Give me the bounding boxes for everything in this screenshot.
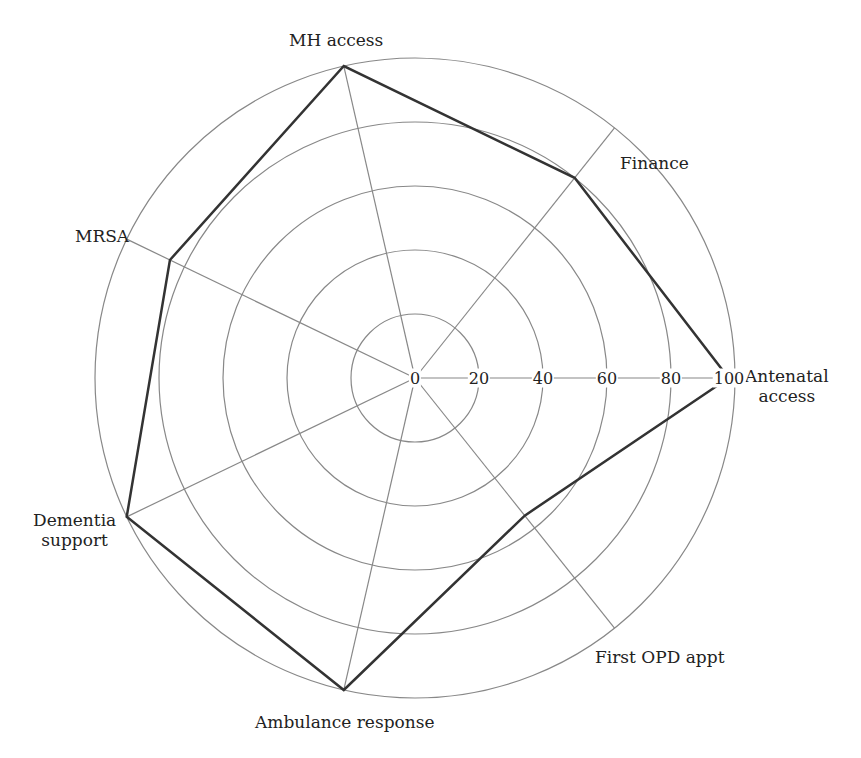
radial-tick-label: 40 [532, 369, 554, 388]
axis-spoke [415, 378, 615, 628]
axis-label-mrsa: MRSA [75, 226, 129, 246]
radial-tick-label: 0 [409, 369, 421, 388]
axis-label-dementia: Dementia support [33, 510, 116, 550]
radial-tick-label: 80 [660, 369, 682, 388]
axis-label-antenatal: Antenatal access [745, 366, 829, 406]
axis-spoke [344, 66, 415, 378]
axis-label-finance: Finance [620, 153, 689, 173]
axis-spoke [344, 378, 415, 690]
axis-label-mh: MH access [289, 30, 383, 50]
axis-label-ambulance: Ambulance response [255, 712, 435, 732]
axis-spoke [415, 128, 615, 378]
axis-label-first-opd: First OPD appt [595, 647, 724, 667]
radial-tick-label: 60 [596, 369, 618, 388]
axis-spoke [127, 378, 415, 517]
radial-tick-label: 100 [713, 369, 746, 388]
radial-tick-label: 20 [468, 369, 490, 388]
